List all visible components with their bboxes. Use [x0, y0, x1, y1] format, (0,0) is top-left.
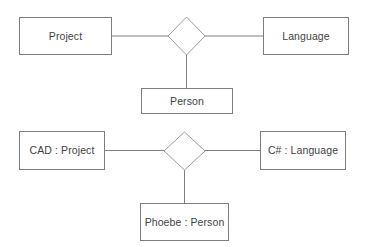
entity-box-csharp-language[interactable]	[261, 132, 346, 170]
entity-box-cad-project[interactable]	[20, 132, 105, 170]
er-diagram-canvas: Project Language Person CAD : Project C#…	[0, 0, 367, 247]
entity-box-project[interactable]	[20, 18, 112, 55]
relationship-diamond-class[interactable]	[168, 17, 205, 55]
entity-box-phoebe-person[interactable]	[141, 204, 229, 241]
entity-box-person[interactable]	[142, 89, 233, 114]
er-diagram-shapes	[0, 0, 367, 247]
entity-box-language[interactable]	[264, 18, 349, 55]
relationship-diamond-instance[interactable]	[164, 132, 205, 170]
